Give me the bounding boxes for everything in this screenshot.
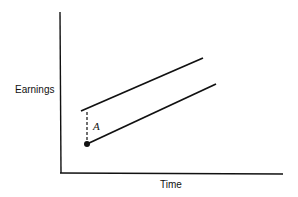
x-axis-label: Time	[160, 179, 182, 190]
y-axis	[60, 12, 61, 173]
x-axis	[60, 173, 283, 174]
start-point	[84, 141, 90, 147]
y-axis-label: Earnings	[15, 84, 54, 95]
earnings-time-diagram	[0, 0, 298, 197]
gap-label: A	[93, 120, 100, 132]
upper-earnings-line	[81, 58, 203, 111]
lower-earnings-line	[87, 84, 216, 144]
